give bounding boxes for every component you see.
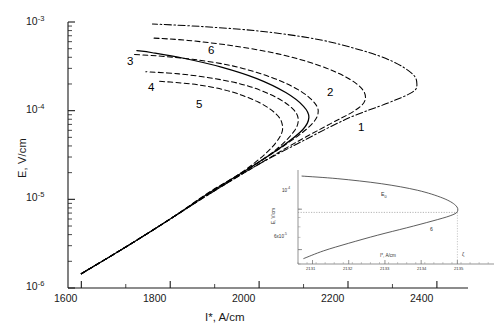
inset-x-tick-2131: 2131: [306, 266, 315, 271]
x-axis-title: I*, A/cm: [205, 311, 245, 323]
curve-label-6: 6: [208, 44, 214, 56]
x-tick-label-2400: 2400: [410, 292, 433, 304]
x-tick-label-1800: 1800: [143, 292, 166, 304]
inset-chart: 10-4 6x10-5 E, V/cm I*, A/cm 2131 2132 2…: [262, 168, 500, 286]
curve-label-5: 5: [196, 98, 202, 110]
y-tick-exp-2: -5: [38, 190, 45, 199]
inset-x-title-units: , A/cm: [383, 253, 396, 258]
y-tick-label-3: 10-6: [26, 280, 44, 292]
y-tick-label-2: 10-5: [26, 191, 44, 203]
y-tick-label-0: 10-3: [26, 15, 44, 27]
y-tick-exp-3: -6: [38, 279, 45, 288]
inset-annotation-curve6: 6: [430, 226, 433, 232]
inset-x-tick-2133: 2133: [380, 266, 389, 271]
curve-label-4: 4: [148, 81, 154, 93]
inset-y-tick-lower-exp: -5: [284, 232, 287, 236]
curve-label-2: 2: [327, 86, 333, 98]
y-tick-exp-1: -4: [38, 102, 45, 111]
inset-x-tick-2134: 2134: [417, 266, 426, 271]
inset-x-tick-2132: 2132: [343, 266, 352, 271]
inset-annotation-zeta: ζ: [462, 251, 464, 257]
inset-x-tick-2135: 2135: [454, 266, 463, 271]
y-tick-label-1: 10-4: [26, 103, 44, 115]
x-tick-label-2000: 2000: [232, 292, 255, 304]
curve-label-3: 3: [127, 55, 133, 67]
inset-y-tick-lower-mantissa: 6x10: [274, 234, 284, 239]
x-axis-title-main: I*: [205, 311, 213, 323]
x-tick-label-2200: 2200: [321, 292, 344, 304]
y-axis-title: E, V/cm: [16, 138, 28, 178]
inset-curve: [302, 176, 458, 259]
curve-label-1: 1: [358, 121, 364, 133]
inset-annotation-e0: E0: [381, 191, 387, 197]
inset-y-tick-lower: 6x10-5: [274, 234, 287, 239]
figure-container: 10-3 10-4 10-5 10-6 1600 1800 2000 2200 …: [0, 0, 502, 334]
inset-y-tick-upper-exp: -4: [287, 186, 290, 190]
inset-x-axis-title: I*, A/cm: [380, 253, 396, 258]
inset-e0-subscript: 0: [384, 195, 386, 199]
x-tick-label-1600: 1600: [54, 292, 77, 304]
inset-y-tick-upper: 10-4: [282, 188, 290, 193]
y-tick-exp-0: -3: [38, 14, 45, 23]
y-axis-ticks: [68, 22, 75, 288]
inset-y-axis-title: E, V/cm: [271, 208, 276, 224]
inset-curve-path: [302, 176, 458, 259]
x-axis-title-units: , A/cm: [213, 311, 245, 323]
inset-guide-lines: [298, 212, 457, 264]
inset-y-ticks: [298, 209, 302, 264]
curve-5: [81, 81, 282, 274]
inset-x-ticks: [298, 260, 488, 264]
